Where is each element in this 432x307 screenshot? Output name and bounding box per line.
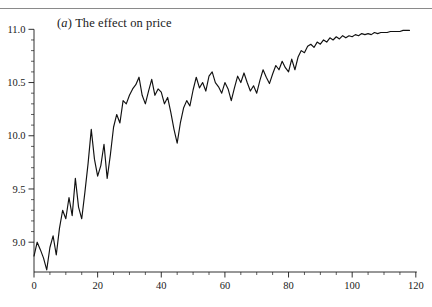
x-tick-label: 60 [220, 280, 231, 291]
y-axis: 9.09.510.010.511.0 [7, 24, 34, 272]
y-axis-tick-labels: 9.09.510.010.511.0 [7, 24, 25, 248]
x-tick-label: 0 [31, 280, 36, 291]
x-axis: 020406080100120 [31, 272, 423, 291]
x-tick-label: 120 [408, 280, 424, 291]
line-chart: 9.09.510.010.511.0 020406080100120 [0, 0, 432, 307]
figure-panel: (a) The effect on price 9.09.510.010.511… [0, 0, 432, 307]
y-tick-label: 9.0 [12, 237, 25, 248]
x-tick-label: 40 [156, 280, 167, 291]
y-tick-label: 11.0 [8, 24, 26, 35]
x-axis-major-ticks [34, 272, 416, 278]
y-tick-label: 10.0 [7, 130, 25, 141]
y-tick-label: 9.5 [12, 184, 25, 195]
x-axis-tick-labels: 020406080100120 [31, 280, 423, 291]
y-tick-label: 10.5 [7, 77, 25, 88]
x-tick-label: 20 [92, 280, 103, 291]
x-tick-label: 80 [283, 280, 294, 291]
price-series-line [34, 30, 409, 269]
x-tick-label: 100 [344, 280, 360, 291]
